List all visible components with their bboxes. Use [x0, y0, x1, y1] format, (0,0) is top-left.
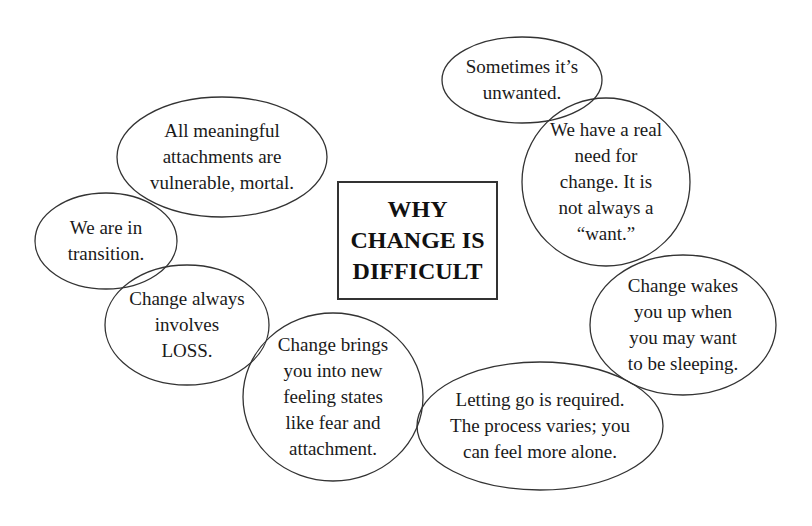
- bubble-line: to be sleeping.: [628, 351, 738, 377]
- bubble-line: We have a real: [550, 117, 662, 143]
- bubble-line: We are in: [68, 215, 145, 241]
- bubble-line: Change wakes: [628, 273, 738, 299]
- bubble-involves-loss: Change alwaysinvolvesLOSS.: [129, 286, 245, 364]
- bubble-line: The process varies; you: [450, 413, 630, 439]
- bubble-line: can feel more alone.: [450, 439, 630, 465]
- title-line: WHY: [350, 194, 484, 225]
- bubble-line: change. It is: [550, 169, 662, 195]
- bubble-line: Change brings: [278, 332, 388, 358]
- bubble-line: attachments are: [150, 144, 294, 170]
- bubble-line: you up when: [628, 299, 738, 325]
- bubble-line: Letting go is required.: [450, 387, 630, 413]
- bubble-line: All meaningful: [150, 118, 294, 144]
- bubble-line: need for: [550, 143, 662, 169]
- bubble-in-transition: We are intransition.: [68, 215, 145, 267]
- bubble-sometimes-unwanted: Sometimes it’sunwanted.: [466, 54, 578, 106]
- bubble-line: you may want: [628, 325, 738, 351]
- title-line: DIFFICULT: [350, 256, 484, 287]
- bubble-line: vulnerable, mortal.: [150, 170, 294, 196]
- bubble-line: attachment.: [278, 436, 388, 462]
- bubble-new-feeling-states: Change bringsyou into newfeeling statesl…: [278, 332, 388, 462]
- bubble-line: unwanted.: [466, 80, 578, 106]
- bubble-real-need: We have a realneed forchange. It isnot a…: [550, 117, 662, 247]
- bubble-line: involves: [129, 312, 245, 338]
- bubble-letting-go: Letting go is required.The process varie…: [450, 387, 630, 465]
- bubble-line: feeling states: [278, 384, 388, 410]
- central-title: WHY CHANGE IS DIFFICULT: [350, 194, 484, 287]
- bubble-line: you into new: [278, 358, 388, 384]
- bubble-line: Sometimes it’s: [466, 54, 578, 80]
- title-line: CHANGE IS: [350, 225, 484, 256]
- bubble-line: transition.: [68, 241, 145, 267]
- bubble-line: Change always: [129, 286, 245, 312]
- bubble-wakes-you-up: Change wakesyou up whenyou may wantto be…: [628, 273, 738, 377]
- bubble-attachments-mortal: All meaningfulattachments arevulnerable,…: [150, 118, 294, 196]
- bubble-line: “want.”: [550, 221, 662, 247]
- central-title-box: WHY CHANGE IS DIFFICULT: [337, 181, 498, 300]
- bubble-line: not always a: [550, 195, 662, 221]
- bubble-line: LOSS.: [129, 338, 245, 364]
- bubble-line: like fear and: [278, 410, 388, 436]
